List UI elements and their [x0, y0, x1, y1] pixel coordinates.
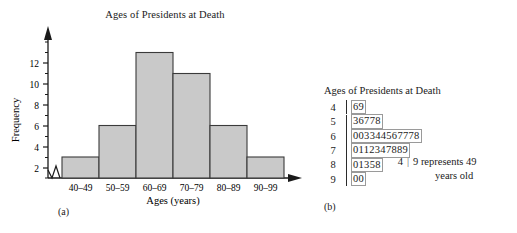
x-tick-label: 90–99 [254, 183, 278, 193]
y-tick-label: 4 [34, 143, 39, 153]
bar [136, 53, 173, 179]
stemplot-row: 9 00 [324, 172, 422, 186]
stemplot-panel: Ages of Presidents at Death 4 69 5 36778… [318, 0, 517, 233]
histogram-svg: 2 4 6 8 10 12 Frequency 40–49 50–59 60–6… [0, 0, 318, 233]
leaf-box: 003344567778 [351, 129, 422, 143]
y-axis-title: Frequency [10, 97, 21, 142]
stemplot-key-line2: years old [435, 170, 473, 181]
stem-value: 9 [324, 172, 345, 186]
axis-break-icon [48, 166, 60, 178]
leaf-box: 01358 [351, 158, 383, 172]
bar [173, 74, 210, 179]
key-text: 9 represents 49 [413, 156, 477, 167]
stem-value: 6 [324, 129, 345, 143]
panel-b-caption: (b) [324, 201, 336, 212]
leaf-values: 36778 [348, 114, 422, 128]
x-axis-title: Ages (years) [146, 195, 200, 207]
y-tick-label: 10 [30, 80, 40, 90]
stem-value: 5 [324, 114, 345, 128]
stemplot-row: 6 003344567778 [324, 129, 422, 143]
stem-value: 7 [324, 143, 345, 157]
figure-container: Ages of Presidents at Death [0, 0, 517, 233]
stemplot-title: Ages of Presidents at Death [324, 85, 441, 96]
stemplot-key: 4|9 represents 49 [391, 156, 477, 167]
leaf-values: 003344567778 [348, 129, 422, 143]
x-tick-label: 50–59 [106, 183, 130, 193]
x-tick-label: 40–49 [69, 183, 93, 193]
leaf-box: 00 [351, 172, 366, 186]
x-tick-label: 80–89 [217, 183, 241, 193]
y-tick-label: 12 [30, 59, 40, 69]
stemplot-row: 5 36778 [324, 114, 422, 128]
stem-value: 8 [324, 158, 345, 172]
stemplot-table: 4 69 5 36778 6 003344567778 7 01 [324, 100, 422, 186]
y-tick-label: 8 [34, 101, 39, 111]
bar [62, 157, 99, 178]
key-stem-value: 4 [391, 156, 403, 167]
x-tick-label: 60–69 [143, 183, 167, 193]
stemplot-row: 4 69 [324, 100, 422, 114]
histogram-bars [62, 53, 284, 179]
leaf-box: 69 [351, 100, 366, 114]
key-separator-icon: | [403, 156, 413, 167]
bar [210, 126, 247, 179]
panel-a-caption: (a) [58, 206, 69, 217]
leaf-values: 00 [348, 172, 422, 186]
bar [247, 157, 284, 178]
leaf-values: 69 [348, 100, 422, 114]
stem-value: 4 [324, 100, 345, 114]
bar [99, 126, 136, 179]
y-tick-label: 2 [34, 164, 39, 174]
y-tick-label: 6 [34, 122, 39, 132]
x-tick-label: 70–79 [180, 183, 204, 193]
leaf-box: 36778 [351, 114, 383, 128]
histogram-panel: Ages of Presidents at Death [0, 0, 318, 233]
y-axis [44, 26, 52, 178]
